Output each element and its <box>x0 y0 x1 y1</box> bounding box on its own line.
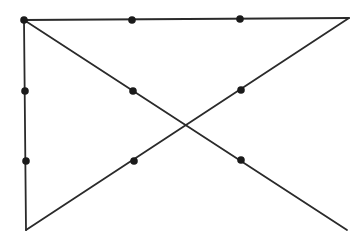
dot-9 <box>237 156 245 164</box>
dot-3 <box>236 15 244 23</box>
dot-4 <box>21 87 29 95</box>
dot-8 <box>130 157 138 165</box>
line-2 <box>26 18 349 230</box>
line-3 <box>24 20 26 230</box>
dot-7 <box>22 157 30 165</box>
connecting-lines <box>24 18 349 230</box>
dot-5 <box>129 87 137 95</box>
nine-dots-diagram <box>0 0 362 248</box>
dot-2 <box>128 16 136 24</box>
dot-6 <box>237 86 245 94</box>
line-1 <box>24 18 349 20</box>
dot-1 <box>20 16 28 24</box>
